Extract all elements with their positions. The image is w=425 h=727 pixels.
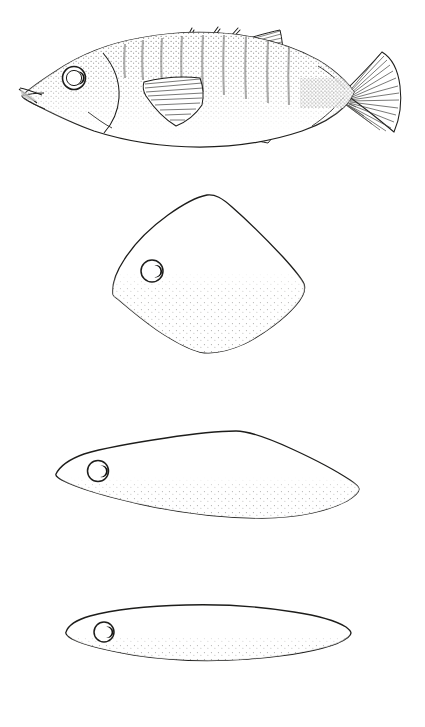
eye [88,461,109,482]
eye [141,260,163,282]
illustration-plate: Fish body form illustration plate [0,0,425,727]
eye [63,67,86,90]
eye [94,622,114,642]
plate-canvas [0,0,425,727]
